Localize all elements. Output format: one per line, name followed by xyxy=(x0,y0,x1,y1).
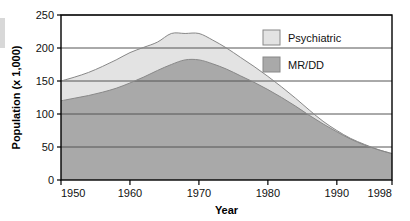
x-axis-title: Year xyxy=(215,204,239,216)
ytick-label-200: 200 xyxy=(36,42,54,54)
xtick-label-1950: 1950 xyxy=(61,187,85,199)
xtick-label-1990: 1990 xyxy=(325,187,349,199)
ytick-label-250: 250 xyxy=(36,9,54,21)
legend-label-mr-dd: MR/DD xyxy=(288,59,324,71)
legend-label-psychiatric: Psychiatric xyxy=(288,32,342,44)
ytick-label-100: 100 xyxy=(36,108,54,120)
stacked-area-chart: 050100150200250195019601970198019901998Y… xyxy=(0,0,410,221)
xtick-label-1980: 1980 xyxy=(256,187,280,199)
xtick-label-1970: 1970 xyxy=(187,187,211,199)
ytick-label-0: 0 xyxy=(48,174,54,186)
ytick-label-150: 150 xyxy=(36,75,54,87)
xtick-label-1960: 1960 xyxy=(118,187,142,199)
ytick-label-50: 50 xyxy=(42,141,54,153)
legend-swatch-psychiatric xyxy=(263,30,280,45)
left-edge-artifact xyxy=(0,18,5,48)
xtick-label-1998: 1998 xyxy=(368,187,392,199)
chart-figure: 050100150200250195019601970198019901998Y… xyxy=(0,0,410,221)
y-axis-title: Population (x 1,000) xyxy=(10,45,22,149)
legend-swatch-mr-dd xyxy=(263,57,280,72)
